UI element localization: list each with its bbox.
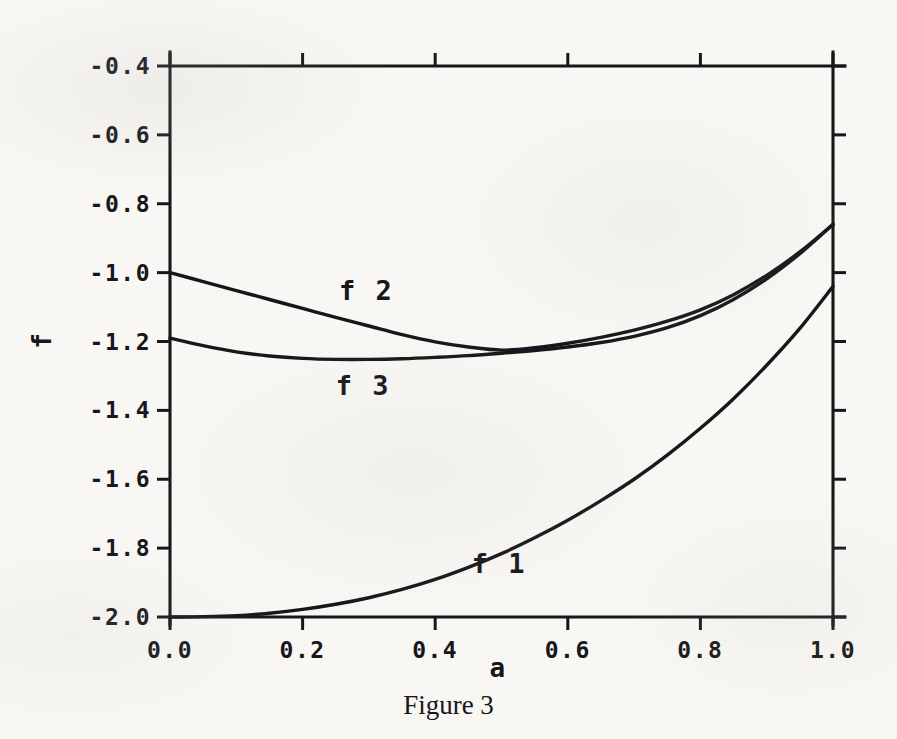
y-tick-label: -0.8 [90, 193, 151, 216]
curve-label-f3: f 3 [336, 372, 391, 399]
y-tick-label: -1.2 [90, 331, 151, 354]
x-tick-label: 0.2 [258, 639, 348, 662]
x-tick-label: 0.0 [125, 639, 215, 662]
curve-label-f2: f 2 [339, 277, 394, 304]
y-tick-label: -1.0 [90, 262, 151, 285]
y-tick-label: -0.4 [90, 55, 151, 78]
plot-frame [170, 52, 845, 625]
figure-caption: Figure 3 [0, 692, 897, 719]
x-axis-title: a [490, 655, 506, 681]
curve-f2 [170, 224, 833, 350]
y-tick-label: -2.0 [90, 606, 151, 629]
y-tick-label: -1.6 [90, 468, 151, 491]
x-tick-label: 0.6 [523, 639, 613, 662]
y-tick-label: -1.8 [90, 537, 151, 560]
x-tick-label: 0.4 [390, 639, 480, 662]
curve-label-f1: f 1 [472, 550, 527, 577]
x-axis-ticks [170, 53, 833, 630]
y-axis-title: f [29, 333, 55, 349]
curve-f3 [170, 224, 833, 359]
y-tick-label: -0.6 [90, 124, 151, 147]
y-tick-label: -1.4 [90, 399, 151, 422]
y-axis-ticks [157, 66, 846, 617]
x-tick-label: 1.0 [788, 639, 878, 662]
figure-3-container: -0.4-0.6-0.8-1.0-1.2-1.4-1.6-1.8-2.0 0.0… [0, 0, 897, 739]
x-tick-label: 0.8 [655, 639, 745, 662]
